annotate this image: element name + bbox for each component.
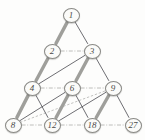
- graph-node-label: 12: [48, 120, 57, 129]
- graph-nodes-layer: 1234698121827: [0, 0, 145, 140]
- graph-node-label: 4: [30, 83, 35, 92]
- graph-node-1[interactable]: 1: [63, 8, 80, 23]
- graph-node-6[interactable]: 6: [64, 81, 81, 96]
- divisor-lattice-diagram: 1234698121827: [0, 0, 145, 140]
- graph-node-12[interactable]: 12: [44, 118, 61, 133]
- graph-node-2[interactable]: 2: [44, 44, 61, 59]
- graph-node-label: 2: [50, 46, 55, 55]
- graph-node-label: 9: [111, 83, 116, 92]
- graph-node-label: 8: [11, 120, 16, 129]
- graph-node-4[interactable]: 4: [24, 81, 41, 96]
- graph-node-label: 6: [70, 83, 75, 92]
- graph-node-3[interactable]: 3: [84, 44, 101, 59]
- graph-node-8[interactable]: 8: [5, 118, 22, 133]
- graph-node-label: 27: [129, 120, 138, 129]
- graph-node-18[interactable]: 18: [84, 118, 101, 133]
- graph-node-9[interactable]: 9: [105, 81, 122, 96]
- graph-node-label: 1: [69, 10, 74, 19]
- graph-node-label: 18: [88, 120, 97, 129]
- graph-node-label: 3: [90, 46, 95, 55]
- graph-node-27[interactable]: 27: [125, 118, 142, 133]
